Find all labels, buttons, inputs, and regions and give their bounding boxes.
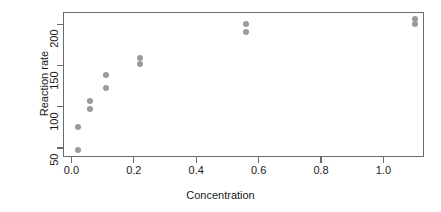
data-point xyxy=(103,72,109,78)
x-axis-tick-label-text: 0.6 xyxy=(251,165,266,176)
x-axis-tick xyxy=(133,157,134,163)
y-axis-tick xyxy=(57,65,63,66)
data-point xyxy=(243,29,249,35)
x-axis-tick xyxy=(196,157,197,163)
x-axis-tick-label-text: 1.0 xyxy=(376,165,391,176)
scatter-plot-figure: 50100150200 0.00.20.40.60.81.0 Reaction … xyxy=(0,0,441,212)
data-point xyxy=(412,21,418,27)
x-axis-tick xyxy=(383,157,384,163)
y-axis-tick-label-text: 200 xyxy=(49,30,60,48)
x-axis-tick-label-text: 0.8 xyxy=(313,165,328,176)
y-axis-tick-label-text: 50 xyxy=(49,153,60,165)
data-point xyxy=(243,21,249,27)
x-axis-tick-label-text: 0.2 xyxy=(126,165,141,176)
y-axis-tick xyxy=(57,147,63,148)
x-axis-tick xyxy=(258,157,259,163)
x-axis-tick-label-text: 0.0 xyxy=(64,165,79,176)
data-point xyxy=(412,16,418,22)
x-axis-title: Concentration xyxy=(0,190,441,201)
y-axis-tick xyxy=(57,24,63,25)
data-point xyxy=(103,85,109,91)
x-axis-tick-label-text: 0.4 xyxy=(189,165,204,176)
y-axis-title: Reaction rate xyxy=(39,50,50,115)
x-axis-tick xyxy=(71,157,72,163)
data-point xyxy=(137,61,143,67)
x-axis-tick xyxy=(320,157,321,163)
y-axis-tick xyxy=(57,106,63,107)
data-point xyxy=(75,124,81,130)
